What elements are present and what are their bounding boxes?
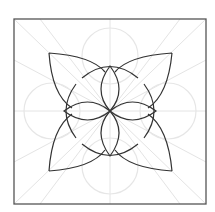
flower-diagram: [0, 0, 215, 212]
